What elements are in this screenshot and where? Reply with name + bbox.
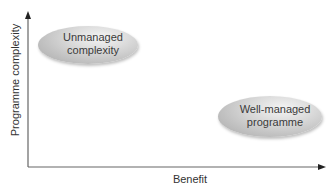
well-managed-programme-ellipse: Well-managed programme (218, 96, 322, 137)
x-axis-arrow-icon (318, 164, 326, 170)
y-axis-label: Programme complexity (9, 24, 21, 136)
unmanaged-complexity-ellipse: Unmanaged complexity (38, 26, 138, 64)
x-axis-label: Benefit (170, 173, 210, 185)
unmanaged-complexity-label: Unmanaged complexity (63, 31, 123, 57)
well-managed-programme-label: Well-managed programme (240, 103, 311, 129)
y-axis-arrow-icon (25, 11, 31, 19)
axes (0, 0, 335, 188)
